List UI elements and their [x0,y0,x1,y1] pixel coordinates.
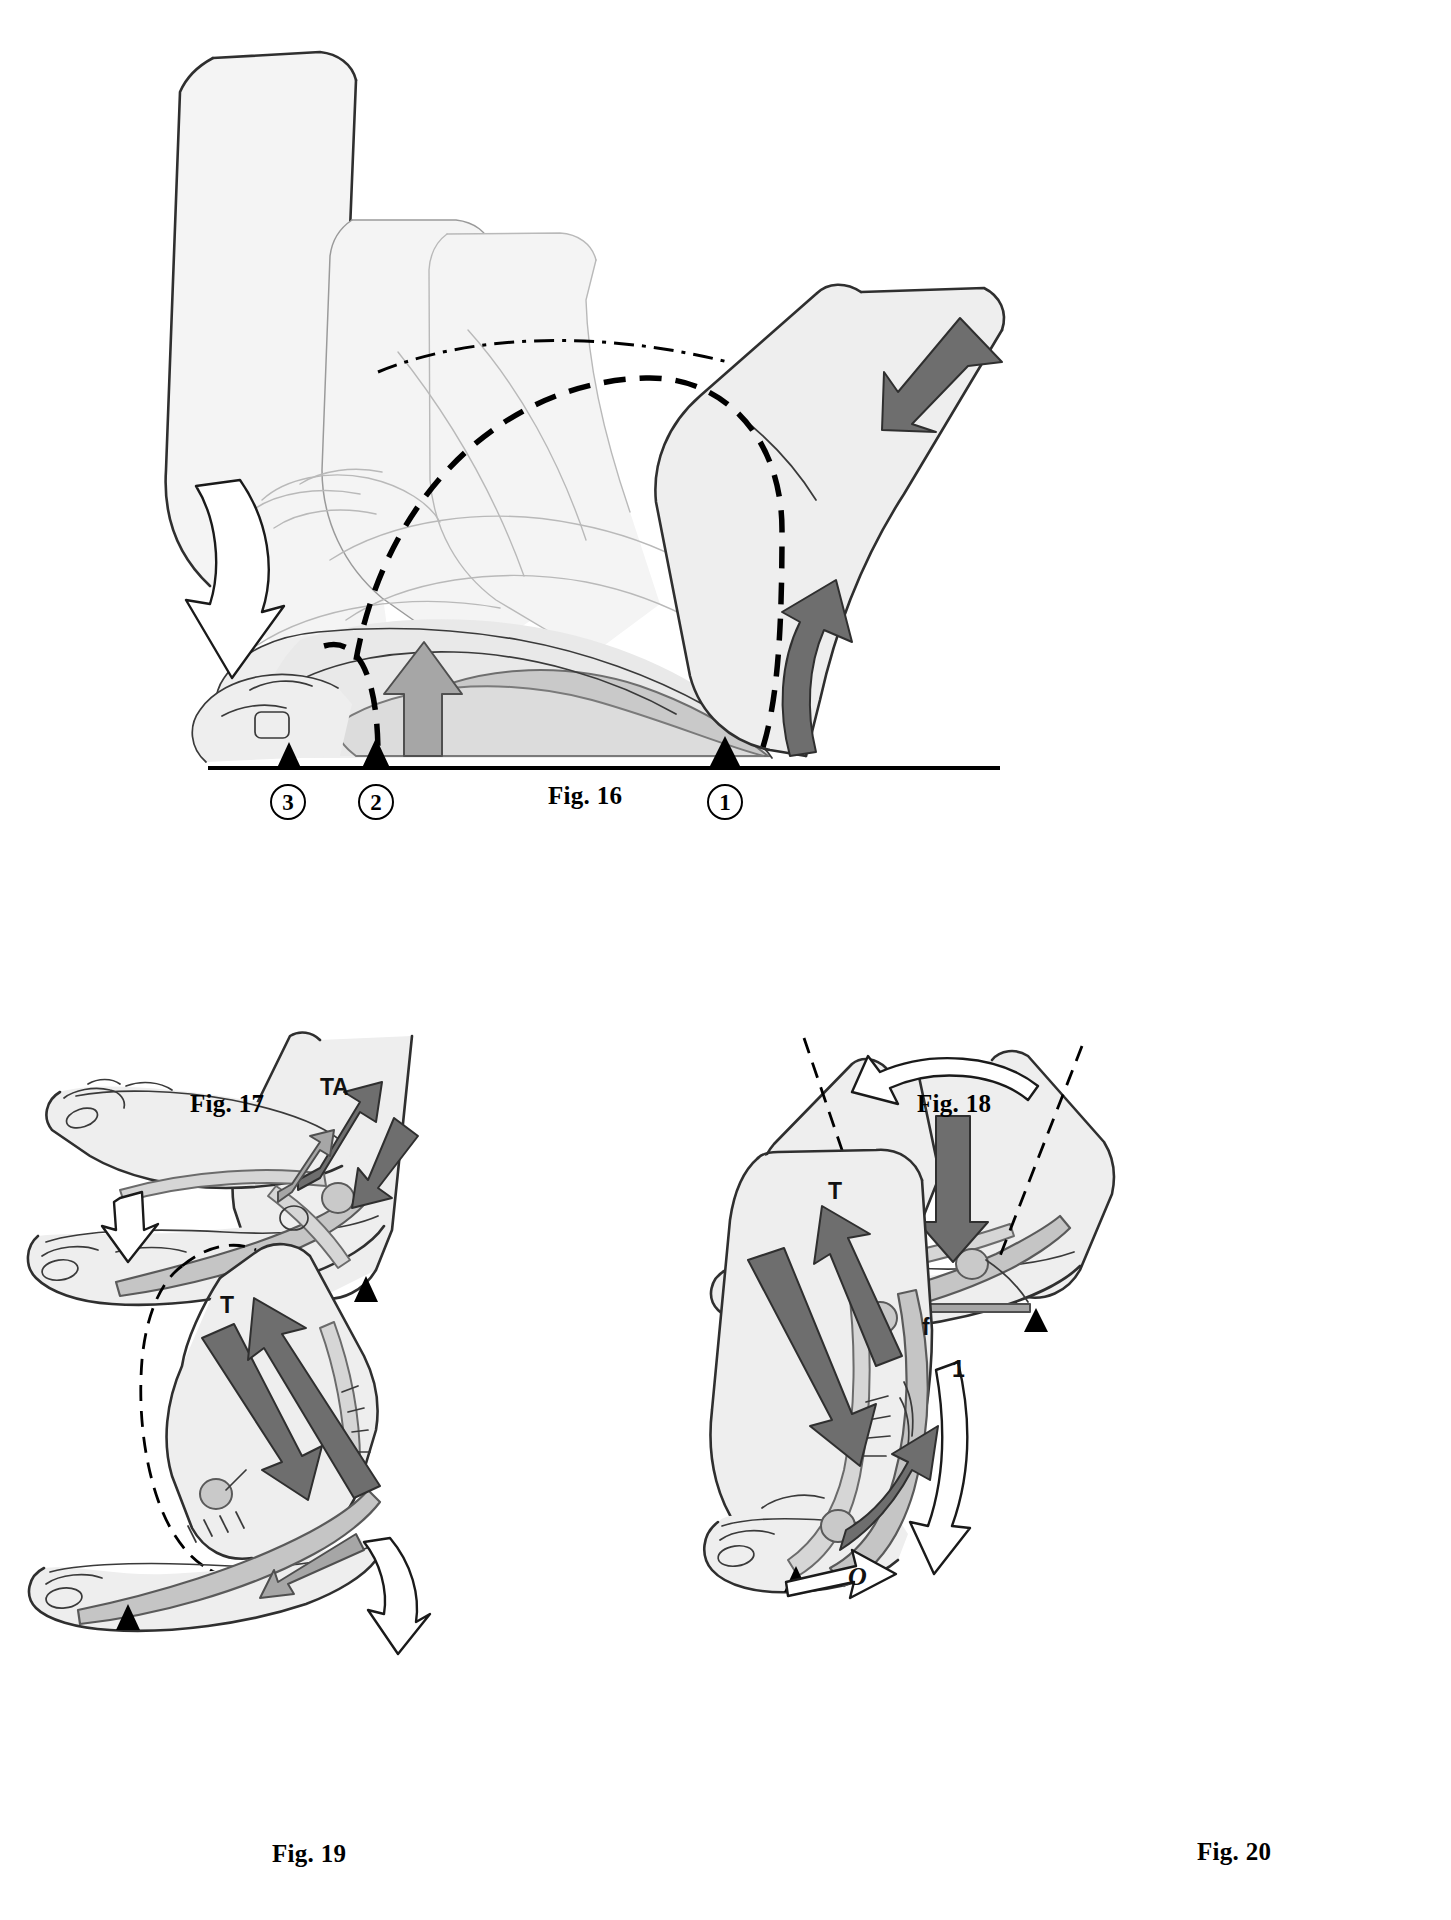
figure-fig16: 3 2 1 [0,0,1100,1010]
ground-marker-label-1: 1 [707,784,743,820]
figure-fig20: T f 1 O [700,1130,1170,1600]
ground-marker-label-2: 2 [358,784,394,820]
caption-fig16: Fig. 16 [548,782,622,810]
fig20-label-1: 1 [952,1356,965,1383]
caption-fig18: Fig. 18 [917,1090,991,1118]
caption-fig20: Fig. 20 [1197,1838,1271,1866]
fig20-label-O: O [848,1562,867,1592]
fig19-label-T: T [220,1292,234,1319]
caption-fig17: Fig. 17 [190,1090,264,1118]
figure-plate: 3 2 1 Fig. 16 [0,0,1451,1920]
figure-fig19: T [20,1170,450,1600]
fig17-label-TA: TA [320,1074,349,1101]
fig19-heel-rotation-hollow-arrow [364,1538,430,1654]
ground-marker-label-3: 3 [270,784,306,820]
fig20-label-f: f [922,1314,930,1341]
caption-fig19: Fig. 19 [272,1840,346,1868]
fig20-label-T: T [828,1178,842,1205]
